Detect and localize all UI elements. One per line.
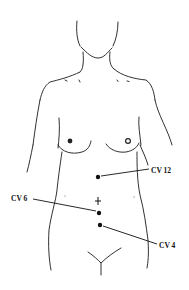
- arm-right-outer: [155, 100, 172, 145]
- point-marker: [96, 175, 100, 179]
- acupoint-cv12: CV 12: [96, 166, 172, 179]
- breast-left: [58, 141, 91, 153]
- head-left-contour: [77, 21, 80, 46]
- shoulder-right: [114, 69, 155, 100]
- head-right-contour: [113, 22, 118, 46]
- point-marker: [98, 223, 102, 227]
- body-outline: [27, 21, 172, 275]
- torso-diagram: CV 12 CV 6 CV 4: [0, 0, 189, 290]
- clavicle-mark: [65, 80, 129, 82]
- point-label: CV 12: [151, 166, 171, 175]
- arm-right-lower: [140, 145, 148, 165]
- breast-right: [106, 143, 139, 152]
- acupoint-cv4: CV 4: [98, 223, 176, 250]
- torso-left-upper: [58, 118, 59, 148]
- flank-mark: [133, 196, 134, 197]
- torso-right-upper: [139, 117, 141, 145]
- chin-contour: [81, 47, 112, 58]
- leader-line: [103, 226, 157, 244]
- groin-line: [88, 248, 121, 275]
- shoulder-left: [40, 72, 80, 100]
- navel-marker: [95, 197, 101, 205]
- point-marker: [97, 211, 101, 215]
- point-label: CV 6: [11, 194, 28, 203]
- arm-left-lower: [27, 145, 33, 172]
- flank-mark: [64, 195, 65, 196]
- arm-left-outer: [33, 100, 40, 145]
- neck-left: [80, 52, 83, 72]
- leader-line: [33, 199, 96, 211]
- neck-right: [110, 52, 114, 69]
- nipple-right: [126, 139, 131, 144]
- nipple-left: [68, 139, 73, 144]
- leader-line: [101, 169, 149, 176]
- torso-left-side: [49, 152, 62, 270]
- point-label: CV 4: [159, 241, 176, 250]
